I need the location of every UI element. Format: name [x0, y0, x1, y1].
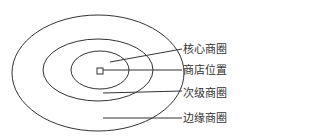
leader-line-secondary	[103, 91, 182, 93]
label-store-location: 商店位置	[183, 64, 227, 77]
leader-line-core	[110, 49, 182, 62]
label-secondary-trade-area: 次级商圈	[183, 87, 227, 100]
store-marker-icon	[97, 68, 103, 74]
label-core-trade-area: 核心商圈	[183, 43, 227, 56]
label-fringe-trade-area: 边缘商圈	[183, 112, 227, 125]
